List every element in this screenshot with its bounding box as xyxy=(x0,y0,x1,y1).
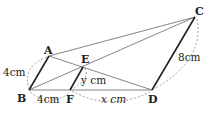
length-label-AB: 4cm xyxy=(3,66,26,78)
point-label-F: F xyxy=(66,93,74,106)
point-label-B: B xyxy=(17,92,26,105)
length-label-EF: y cm xyxy=(80,74,106,86)
point-label-D: D xyxy=(148,93,158,106)
length-label-CD: 8cm xyxy=(178,51,201,63)
segment-BC xyxy=(29,17,195,90)
length-label-FD: x cm xyxy=(101,93,126,105)
length-label-BF: 4cm xyxy=(37,93,60,105)
arc-AB xyxy=(27,57,47,89)
point-label-A: A xyxy=(43,44,53,57)
point-label-C: C xyxy=(195,5,204,18)
segment-AC xyxy=(49,17,195,56)
point-label-E: E xyxy=(81,53,89,66)
geometry-diagram: A B C D E F 4cm 4cm y cm x cm 8cm xyxy=(0,0,214,113)
